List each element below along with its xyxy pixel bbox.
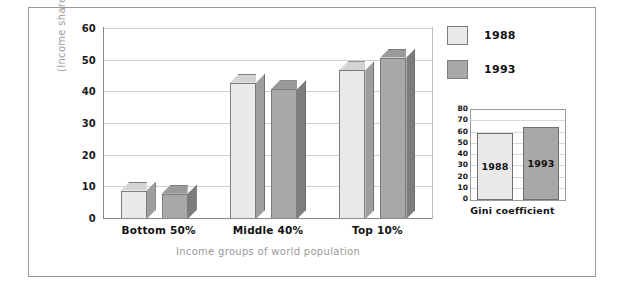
inset-y-tick-label: 20 [452, 173, 468, 180]
y-axis-tick-label: 40 [66, 86, 96, 97]
x-axis-line [104, 218, 432, 219]
bar-1993-2 [271, 80, 306, 219]
x-axis-title: Income groups of world population [104, 246, 432, 257]
bar-front-face [162, 194, 188, 219]
bar-side-face [406, 49, 415, 220]
bar-top-face [162, 185, 188, 194]
bar-1993-1 [162, 185, 197, 219]
y-axis-tick-label: 50 [66, 55, 96, 66]
bar-front-face [380, 58, 406, 220]
x-axis-category-label: Middle 40% [213, 224, 322, 236]
y-axis-tick-label: 30 [66, 118, 96, 129]
bar-side-face [297, 80, 306, 219]
inset-y-tick-label: 30 [452, 161, 468, 168]
plot-right-edge [432, 27, 433, 219]
bar-side-face [188, 185, 197, 219]
y-axis-line [103, 27, 104, 219]
legend-swatch-1988 [447, 26, 468, 45]
bar-front-face [271, 89, 297, 219]
inset-y-tick-label: 0 [452, 195, 468, 202]
legend-swatch-1993 [447, 60, 468, 79]
inset-gini-chart: 19881993 01020304050607080 Gini coeffici… [451, 106, 574, 226]
inset-bar-label-1988: 1988 [478, 161, 512, 172]
y-axis-tick-label: 10 [66, 181, 96, 192]
y-axis-tick-label: 20 [66, 150, 96, 161]
bar-top-face [339, 61, 365, 70]
bar-top-face [271, 80, 297, 89]
bar-top-face [230, 74, 256, 83]
bar-side-face [365, 61, 374, 219]
inset-y-tick-label: 60 [452, 128, 468, 135]
gridline [104, 28, 432, 29]
inset-title: Gini coefficient [451, 205, 574, 216]
bar-side-face [147, 182, 156, 220]
bar-1988-1 [121, 182, 156, 220]
x-axis-category-label: Bottom 50% [104, 224, 213, 236]
bar-top-face [121, 182, 147, 191]
inset-bar-label-1993: 1993 [524, 158, 558, 169]
bar-1988-3 [339, 61, 374, 219]
bar-front-face [230, 83, 256, 219]
chart-figure: 0102030405060 (Income share) Bottom 50%M… [0, 0, 623, 284]
inset-plot-area: 19881993 [470, 109, 566, 201]
inset-y-tick-label: 10 [452, 184, 468, 191]
inset-y-tick-label: 70 [452, 116, 468, 123]
legend-label-1993: 1993 [484, 63, 516, 76]
inset-gridline [471, 120, 565, 121]
inset-y-tick-label: 40 [452, 150, 468, 157]
bar-front-face [339, 70, 365, 219]
plot-area [104, 29, 432, 219]
y-axis-title: (Income share) [56, 0, 67, 72]
y-axis-tick-label: 0 [66, 213, 96, 224]
inset-bar-1988: 1988 [477, 133, 513, 201]
bar-top-face [380, 49, 406, 58]
bar-front-face [121, 191, 147, 220]
bar-1988-2 [230, 74, 265, 219]
inset-bar-1993: 1993 [523, 127, 559, 200]
x-axis-category-label: Top 10% [323, 224, 432, 236]
legend-label-1988: 1988 [484, 29, 516, 42]
inset-y-tick-label: 80 [452, 105, 468, 112]
bar-1993-3 [380, 49, 415, 220]
bar-side-face [256, 74, 265, 219]
inset-y-tick-label: 50 [452, 139, 468, 146]
y-axis-tick-label: 60 [66, 23, 96, 34]
